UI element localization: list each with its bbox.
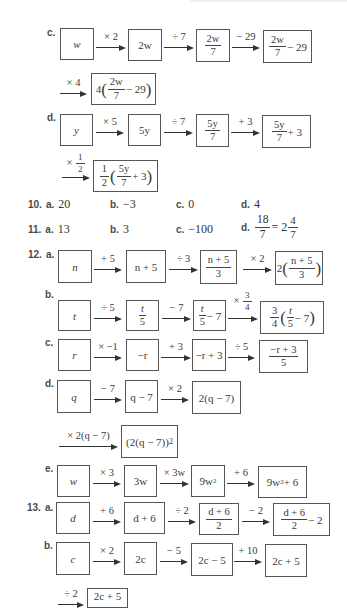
arrow-head-icon	[77, 602, 84, 608]
operation-label: + 10	[234, 545, 262, 556]
arrow-head-icon	[248, 355, 255, 361]
arrow-head-icon	[80, 91, 87, 97]
arrow-13a-3: − 2	[242, 505, 270, 527]
operation-label: × 2(q − 7)	[59, 430, 118, 441]
arrow-head-icon	[182, 397, 189, 403]
arrow-head-icon	[253, 130, 260, 136]
fraction: 2w7	[205, 34, 222, 58]
arrow-head-icon	[184, 355, 191, 361]
start-box-9c: w	[60, 28, 94, 60]
operation-label: − 5	[160, 545, 188, 556]
operation-label: ÷ 7	[164, 116, 193, 127]
operation-label: × 2	[96, 31, 126, 42]
result-box-12e-1: 3w	[124, 465, 157, 497]
start-box-13a: d	[56, 502, 90, 534]
operation-label: − 29	[232, 31, 260, 42]
start-box-12d: q	[57, 380, 91, 413]
expr: 5y	[139, 124, 150, 136]
result-box-13b-1: 2c	[124, 542, 157, 575]
arrow-head-icon	[253, 45, 260, 51]
result-box-12a-2: n + 53	[200, 250, 237, 284]
result-box-13a-2: d + 62	[199, 503, 239, 535]
arrow-head-icon	[115, 355, 122, 361]
arrow-12e-1: × 3	[93, 467, 121, 489]
arrow-head-icon	[114, 519, 121, 525]
arrow-head-icon	[189, 519, 196, 525]
fraction: t5	[287, 306, 294, 330]
arrow-13b-1: × 2	[93, 545, 121, 567]
arrow-12a-3: × 2	[243, 253, 272, 275]
arrow-head-icon	[191, 267, 198, 273]
operation-label: × 2	[161, 383, 189, 394]
fraction: 2w7	[269, 35, 286, 59]
answer-11b: b.3	[110, 222, 129, 237]
operation-label: + 6	[93, 505, 121, 516]
arrow-head-icon	[119, 45, 126, 51]
operation-label: × 4	[60, 77, 87, 88]
result-box-9d-3: 5y7 + 3	[262, 115, 311, 148]
arrow-12c-3: ÷ 5	[228, 341, 255, 363]
arrow-head-icon	[115, 397, 122, 403]
start-box-12c: r	[58, 339, 91, 371]
part-label-9c: c.	[47, 27, 55, 38]
arrow-head-icon	[117, 130, 124, 136]
arrow-9c-1: × 2	[96, 31, 126, 53]
operation-label: × 3w	[160, 467, 189, 478]
start-box-9d: y	[60, 114, 93, 146]
arrow-head-icon	[184, 316, 191, 322]
result-box-9d-1: 5y	[128, 114, 161, 146]
operation-label: × 12	[62, 153, 90, 174]
result-box-12e-2: 9w2	[191, 465, 225, 497]
result-box-12c-1: −r	[126, 339, 159, 371]
arrow-12b-1: ÷ 5	[94, 302, 122, 324]
operation-label: − 7	[94, 383, 122, 394]
operation-label: × 5	[96, 116, 124, 127]
operation-label: × 3	[93, 467, 121, 478]
start-box-12b: t	[58, 300, 91, 331]
answer-11d: d. 187 = 2 47	[241, 214, 299, 240]
expr: y	[74, 124, 79, 136]
result-box-13a-1: d + 6	[124, 502, 165, 534]
arrow-head-icon	[114, 481, 121, 487]
fraction: 5y7	[205, 119, 220, 143]
fraction: t5	[139, 304, 146, 328]
part-label-12e: e.	[45, 463, 53, 474]
fraction: t5	[199, 304, 206, 328]
part-label-12d: d.	[45, 378, 54, 389]
arrow-head-icon	[251, 316, 258, 322]
operation-label: ÷ 7	[164, 31, 194, 42]
operation-label: + 3	[231, 116, 260, 127]
arrow-head-icon	[263, 519, 270, 525]
result-box-13b-3: 2c + 5	[265, 544, 307, 577]
answer-row-10: 10.a.20	[28, 197, 70, 212]
result-box-9c-2: 2w7	[196, 29, 230, 62]
fraction: 47	[288, 215, 298, 240]
result-box-12b-3: 34(t5 − 7)	[260, 301, 324, 334]
operation-label: − 7	[162, 302, 191, 313]
operation-label: ÷ 2	[168, 505, 196, 516]
arrow-9d-2: ÷ 7	[164, 116, 193, 138]
operation-label: ÷ 2	[58, 588, 84, 599]
arrow-9c-2: ÷ 7	[164, 31, 194, 53]
operation-label: + 6	[227, 467, 255, 478]
result-box-9c-4: 4(2w7 − 29)	[91, 73, 156, 105]
start-box-13b: c	[56, 542, 90, 575]
arrow-12c-1: × −1	[94, 341, 122, 363]
result-box-12d-3: (2(q − 7))2	[121, 425, 178, 458]
arrow-9c-4: × 4	[60, 77, 87, 99]
expr: − 29	[287, 41, 307, 53]
result-box-12c-3: −r + 35	[259, 340, 308, 373]
arrow-head-icon	[181, 559, 188, 565]
arrow-9d-3: + 3	[231, 116, 260, 138]
operation-label: ÷ 5	[94, 302, 122, 313]
arrow-head-icon	[114, 559, 121, 565]
arrow-13b-4: ÷ 2	[58, 588, 84, 610]
expr: 2w	[138, 39, 151, 51]
fraction: 34	[270, 306, 279, 330]
operation-label: ÷ 5	[228, 341, 255, 352]
arrow-12e-3: + 6	[227, 467, 255, 489]
operation-label: × −1	[94, 341, 122, 352]
part-label-13b: b.	[44, 540, 53, 551]
operation-label: + 3	[161, 341, 191, 352]
fraction: d + 62	[281, 508, 307, 532]
